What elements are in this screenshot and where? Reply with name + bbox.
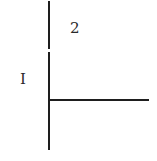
vertical-line-lower <box>48 52 50 150</box>
region-label-2: 2 <box>70 21 80 36</box>
region-label-1: I <box>20 72 26 87</box>
horizontal-line <box>49 99 149 101</box>
vertical-line-upper <box>48 1 50 49</box>
diagram-canvas: I 2 <box>0 0 157 161</box>
